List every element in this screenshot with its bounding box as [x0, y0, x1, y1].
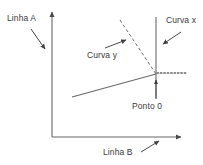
linha-a-pointer-arrow-icon	[31, 29, 45, 49]
label-curva-y: Curva y	[87, 50, 117, 60]
diagram-canvas: Linha A Curva y Curva x Ponto 0 Linha B	[0, 0, 203, 165]
label-curva-x: Curva x	[166, 15, 196, 25]
label-linha-b: Linha B	[103, 147, 133, 157]
curva-y-line	[120, 20, 156, 74]
curva-x-pointer-arrow-icon	[163, 32, 181, 44]
label-linha-a: Linha A	[7, 13, 36, 23]
curva-y-pointer-arrow-icon	[105, 40, 126, 48]
linha-b-pointer-arrow-icon	[141, 141, 159, 152]
linha-inclinada	[72, 74, 156, 97]
label-ponto-0: Ponto 0	[132, 101, 162, 111]
